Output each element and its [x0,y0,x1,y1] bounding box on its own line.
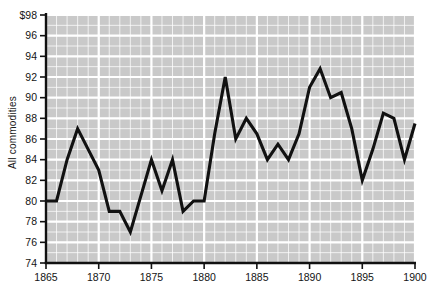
x-axis-tick-label: 1880 [192,271,216,283]
y-axis-tick-label: 92 [25,71,37,83]
y-axis-tick-label: 78 [25,215,37,227]
x-axis-tick-label: 1885 [245,271,269,283]
chart-container: All commodities $98969492908886848280787… [0,0,438,295]
y-axis-tick-label: 84 [25,153,37,165]
y-axis-tick-label: 80 [25,195,37,207]
x-axis-tick-label: 1865 [34,271,58,283]
y-axis-tick-label: 76 [25,236,37,248]
y-axis-tick-label: 86 [25,133,37,145]
x-axis-tick-label: 1900 [403,271,427,283]
x-axis-ticks: 18651870187518801885189018951900 [34,263,427,283]
x-axis-tick-label: 1895 [351,271,375,283]
x-axis-tick-label: 1875 [140,271,164,283]
y-axis-tick-label: 94 [25,50,37,62]
x-axis-tick-label: 1870 [87,271,111,283]
y-axis-tick-label: $98 [19,9,37,21]
y-axis-ticks: $98969492908886848280787674 [19,9,46,269]
y-axis-tick-label: 74 [25,257,37,269]
y-axis-tick-label: 90 [25,91,37,103]
x-axis-tick-label: 1890 [298,271,322,283]
y-axis-tick-label: 88 [25,112,37,124]
line-chart-plot: $98969492908886848280787674 186518701875… [0,0,438,295]
y-axis-tick-label: 96 [25,29,37,41]
y-axis-tick-label: 82 [25,174,37,186]
